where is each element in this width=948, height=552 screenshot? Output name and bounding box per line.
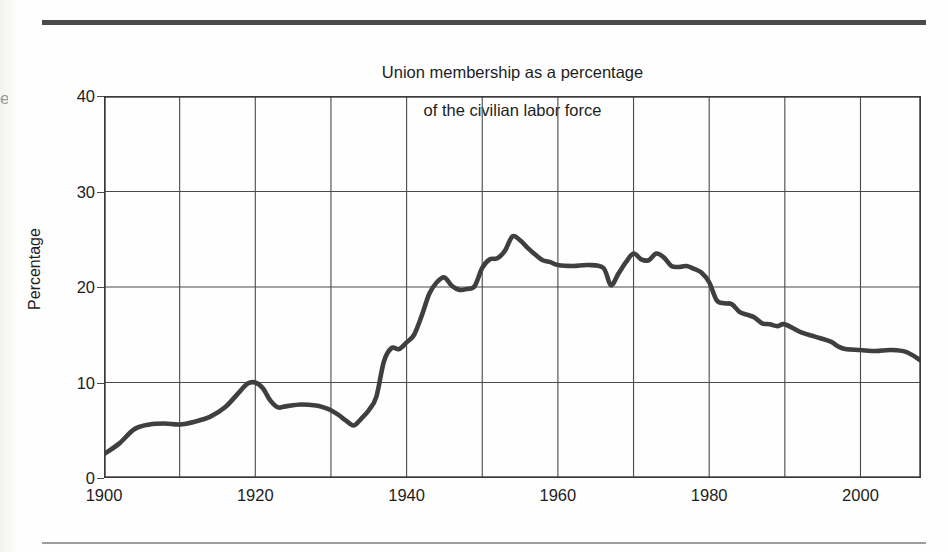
x-axis-tick-label: 1980 (691, 486, 728, 505)
y-axis-tick-mark (97, 383, 104, 384)
page-scan-edge-artifact (0, 0, 20, 552)
x-axis-tick-label: 1920 (237, 486, 274, 505)
y-axis-tick-label: 30 (77, 182, 95, 201)
page-margin-glyph: e (0, 88, 8, 110)
x-axis-tick-label: 1940 (388, 486, 425, 505)
line-chart-canvas (104, 96, 921, 478)
y-axis-tick-mark (97, 287, 104, 288)
chart-title-line-1: Union membership as a percentage (382, 63, 643, 81)
x-axis-tick-label: 1900 (86, 486, 123, 505)
y-axis-tick-label: 40 (77, 87, 95, 106)
figure-page: e Union membership as a percentage of th… (0, 0, 948, 552)
x-axis-tick-label: 2000 (842, 486, 879, 505)
y-axis-tick-label: 0 (86, 469, 95, 488)
y-axis-tick-label: 20 (77, 278, 95, 297)
x-axis-tick-label: 1960 (540, 486, 577, 505)
y-axis-tick-label: 10 (77, 373, 95, 392)
y-axis-tick-mark (97, 192, 104, 193)
plot-area: 010203040 190019201940196019802000 (104, 96, 921, 478)
bottom-rule-divider (42, 542, 926, 544)
y-axis-tick-mark (97, 478, 104, 479)
top-rule-divider (42, 20, 926, 25)
y-axis-tick-mark (97, 96, 104, 97)
y-axis-label: Percentage (26, 209, 44, 329)
data-line-union-membership (104, 236, 921, 454)
